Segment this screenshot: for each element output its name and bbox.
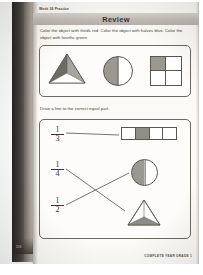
review-banner: Review	[33, 13, 199, 25]
circle-halves-shape[interactable]	[103, 56, 133, 86]
photo-top-margin	[0, 0, 203, 2]
footer-label: COMPLETE YEAR GRADE 1	[144, 254, 192, 259]
week-practice-label: Week 36 Practice	[39, 7, 69, 12]
matching-exercise: 1 3 1 4 1 2	[39, 119, 191, 239]
fraction-one-third[interactable]: 1 3	[51, 126, 64, 143]
fraction-numerator: 1	[51, 126, 64, 134]
rect-part	[163, 128, 176, 139]
matching-circle-halves-shape[interactable]	[131, 159, 158, 186]
fraction-denominator: 2	[51, 206, 64, 214]
fraction-denominator: 3	[51, 135, 64, 143]
exercise-2-instruction: Draw a line to the correct equal part.	[40, 106, 190, 113]
fraction-numerator: 1	[51, 161, 64, 169]
rectangle-fourths-shape[interactable]	[121, 127, 177, 140]
square-quadrant	[151, 71, 166, 85]
exercise-1-shape-row	[39, 49, 191, 93]
banner-title: Review	[102, 15, 130, 24]
binding-dark-core	[12, 0, 24, 262]
book-binding: 206	[6, 0, 34, 262]
worksheet-page: Week 36 Practice Review Color the object…	[33, 2, 199, 264]
fraction-one-half[interactable]: 1 2	[51, 197, 64, 214]
square-fourths-shape[interactable]	[150, 56, 182, 86]
page-number: 206	[16, 245, 22, 249]
fraction-denominator: 4	[51, 170, 64, 178]
triangle-thirds-icon	[48, 53, 86, 85]
matching-triangle-thirds-shape[interactable]	[127, 199, 161, 227]
exercise-1-instruction: Color the object with thirds red. Color …	[40, 28, 190, 41]
photo-right-margin	[199, 0, 203, 275]
page-gutter-shadow	[33, 2, 38, 264]
fraction-one-fourth[interactable]: 1 4	[51, 161, 64, 178]
photo-bottom-margin	[0, 264, 203, 275]
triangle-thirds-icon	[127, 199, 161, 227]
rect-part	[122, 128, 136, 139]
fraction-numerator: 1	[51, 197, 64, 205]
rect-part-shaded	[136, 128, 150, 139]
rect-part	[150, 128, 164, 139]
workbook-photo: 206 Week 36 Practice Review Color the ob…	[0, 0, 203, 275]
square-quadrant-shaded	[151, 57, 166, 71]
square-quadrant	[166, 57, 181, 71]
square-quadrant	[166, 71, 181, 85]
triangle-thirds-shape[interactable]	[48, 53, 86, 89]
